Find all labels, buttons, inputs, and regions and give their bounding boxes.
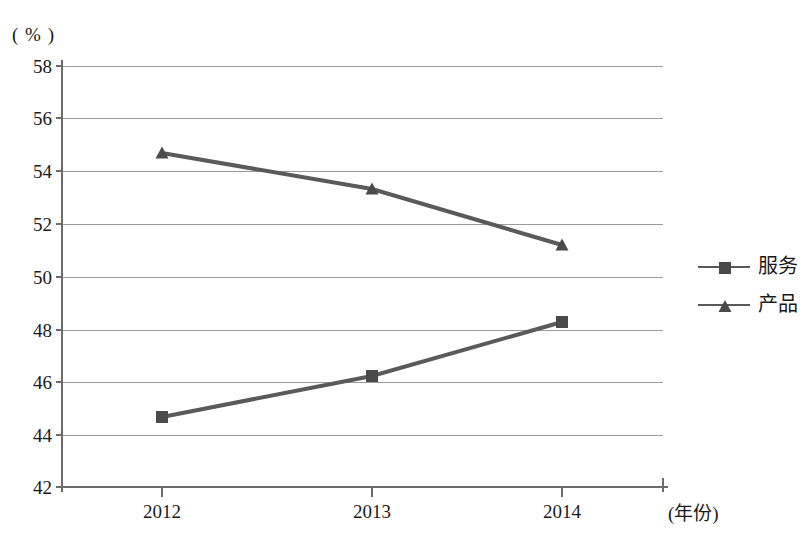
- plot-area: [0, 0, 812, 552]
- x-axis-ticks: [162, 487, 562, 497]
- point-service-2012: [156, 411, 168, 423]
- square-marker-icon: [718, 261, 732, 275]
- legend-label-service: 服务: [758, 252, 798, 280]
- x-tick-2013: 2013: [353, 502, 391, 521]
- legend-label-product: 产品: [758, 290, 798, 318]
- point-service-2014: [556, 316, 568, 328]
- series-product-line: [162, 153, 562, 245]
- x-axis-title: (年份): [668, 498, 719, 525]
- series-service: [156, 316, 568, 423]
- legend-item-product: 产品: [698, 290, 810, 328]
- point-service-2013: [366, 370, 378, 382]
- legend-swatch-product: [698, 303, 750, 307]
- chart-legend: 服务 产品: [698, 252, 810, 328]
- x-tick-2012: 2012: [143, 502, 181, 521]
- y-axis-ticks: [56, 66, 62, 487]
- series-service-line: [162, 322, 562, 417]
- legend-item-service: 服务: [698, 252, 810, 290]
- series-product: [156, 147, 569, 251]
- triangle-marker-icon: [718, 299, 732, 313]
- line-chart: ( % ) 58 56 54 52 50 48 46 44 42: [0, 0, 812, 552]
- x-tick-2014: 2014: [543, 502, 581, 521]
- legend-swatch-service: [698, 265, 750, 269]
